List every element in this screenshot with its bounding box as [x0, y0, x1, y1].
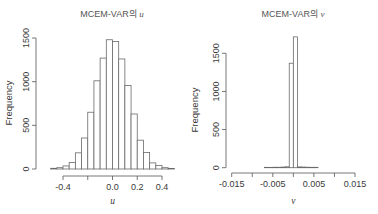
histogram-bar — [285, 167, 289, 168]
histogram-bar — [281, 167, 285, 168]
y-tick-label: 1000 — [211, 81, 221, 101]
histogram-bar — [162, 168, 168, 169]
x-tick-label: 0.015 — [344, 179, 367, 189]
x-tick-label: -0.005 — [260, 179, 286, 189]
histogram-bar — [302, 167, 306, 168]
y-tick-label: 1000 — [21, 72, 31, 92]
histogram-bar — [293, 37, 297, 168]
histogram-v: 050010001500-0.015-0.0050.0050.015MCEM-V… — [189, 9, 366, 206]
histogram-bar — [75, 153, 81, 169]
y-tick-label: 0 — [21, 166, 31, 171]
chart-canvas: 050010001500-0.40.00.20.4MCEM-VAR의 uuFre… — [0, 0, 378, 214]
x-tick-label: -0.015 — [219, 179, 245, 189]
histogram-bar — [150, 163, 156, 169]
histogram-bar — [51, 168, 57, 169]
x-tick-label: 0.005 — [303, 179, 326, 189]
histogram-u: 050010001500-0.40.00.20.4MCEM-VAR의 uuFre… — [3, 9, 174, 206]
y-tick-label: 1500 — [211, 43, 221, 63]
y-axis-label: Frequency — [189, 87, 200, 132]
histogram-bar — [125, 86, 131, 169]
histogram-bar — [168, 168, 174, 169]
x-tick-label: 0.0 — [106, 182, 119, 192]
chart-title: MCEM-VAR의 v — [262, 9, 325, 19]
x-axis-label: v — [291, 196, 296, 206]
histogram-bar — [57, 168, 63, 169]
histogram-bar — [137, 140, 143, 169]
histogram-bar — [113, 41, 119, 169]
histogram-bar — [82, 138, 88, 169]
x-axis-label: u — [110, 196, 115, 206]
y-tick-label: 0 — [211, 165, 221, 170]
y-tick-label: 1500 — [21, 28, 31, 48]
y-tick-label: 500 — [21, 118, 31, 133]
histogram-bar — [100, 58, 106, 169]
histogram-bar — [289, 63, 293, 167]
y-tick-label: 500 — [211, 122, 221, 137]
histogram-bar — [156, 166, 162, 169]
histogram-bar — [94, 81, 100, 169]
x-tick-label: 0.4 — [156, 182, 169, 192]
y-axis-label: Frequency — [3, 80, 14, 125]
x-tick-label: 0.2 — [131, 182, 144, 192]
histogram-bar — [119, 59, 125, 169]
histogram-bar — [131, 114, 137, 169]
histogram-bar — [69, 162, 75, 169]
histogram-bar — [297, 167, 301, 168]
histogram-bar — [143, 152, 149, 169]
x-tick-label: -0.4 — [55, 182, 71, 192]
histogram-bar — [63, 166, 69, 169]
chart-title: MCEM-VAR의 u — [80, 9, 144, 19]
histogram-bar — [88, 112, 94, 169]
histogram-bar — [106, 40, 112, 169]
